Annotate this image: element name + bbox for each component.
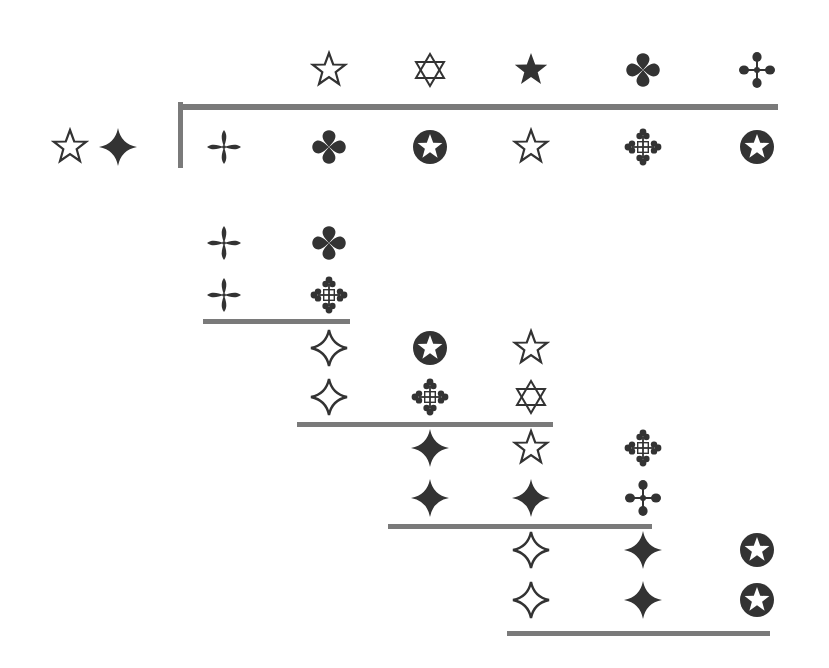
block-2-underline-divider	[297, 422, 553, 427]
circled-star-icon	[410, 127, 450, 167]
circled-star-icon	[410, 328, 450, 368]
star-outline-icon	[50, 127, 90, 167]
bracket-vertical-divider	[178, 102, 183, 168]
circled-star-icon	[737, 530, 777, 570]
ball-cross-icon	[623, 478, 663, 518]
four-point-star-outline-icon	[309, 328, 349, 368]
quatrefoil-icon	[623, 50, 663, 90]
block-4-underline-divider	[507, 631, 770, 636]
trefoil-cross-icon	[410, 377, 450, 417]
trefoil-cross-icon	[623, 127, 663, 167]
trefoil-cross-icon	[309, 275, 349, 315]
bracket-top-divider	[178, 104, 778, 110]
quatrefoil-icon	[309, 127, 349, 167]
block-3-underline-divider	[388, 524, 652, 529]
ball-cross-icon	[737, 50, 777, 90]
four-point-star-outline-icon	[511, 530, 551, 570]
star-filled-icon	[511, 50, 551, 90]
symbol-diagram	[0, 0, 829, 668]
star-of-david-icon	[410, 50, 450, 90]
circled-star-icon	[737, 580, 777, 620]
four-point-star-filled-icon	[410, 428, 450, 468]
star-outline-icon	[511, 127, 551, 167]
four-point-star-filled-icon	[623, 580, 663, 620]
star-outline-icon	[511, 428, 551, 468]
four-point-star-filled-icon	[511, 478, 551, 518]
block-1-underline-divider	[203, 319, 350, 324]
propeller-icon	[204, 223, 244, 263]
quatrefoil-icon	[309, 223, 349, 263]
star-outline-icon	[309, 50, 349, 90]
four-point-star-filled-icon	[98, 127, 138, 167]
circled-star-icon	[737, 127, 777, 167]
four-point-star-outline-icon	[511, 580, 551, 620]
propeller-icon	[204, 127, 244, 167]
four-point-star-outline-icon	[309, 377, 349, 417]
four-point-star-filled-icon	[623, 530, 663, 570]
trefoil-cross-icon	[623, 428, 663, 468]
propeller-icon	[204, 275, 244, 315]
star-outline-icon	[511, 328, 551, 368]
four-point-star-filled-icon	[410, 478, 450, 518]
star-of-david-icon	[511, 377, 551, 417]
